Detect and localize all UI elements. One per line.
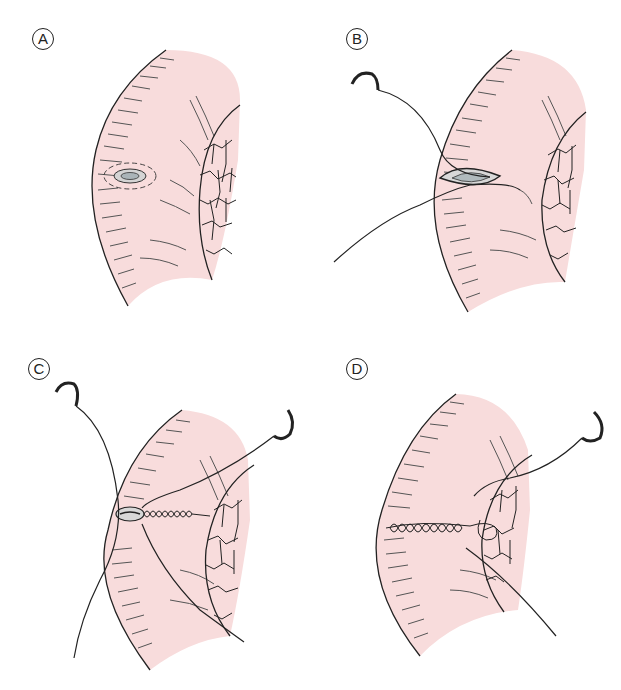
illustration-c	[0, 340, 310, 690]
panel-b: B	[310, 0, 621, 330]
panel-c: C	[0, 340, 310, 690]
needle-icon	[274, 410, 293, 439]
illustration-a	[0, 0, 310, 330]
illustration-d	[310, 340, 621, 690]
illustration-b	[310, 0, 621, 330]
needle-icon	[582, 412, 602, 441]
needle-icon	[352, 73, 378, 90]
panel-d: D	[310, 340, 621, 690]
panel-a: A	[0, 0, 310, 330]
needle-icon	[56, 383, 78, 406]
